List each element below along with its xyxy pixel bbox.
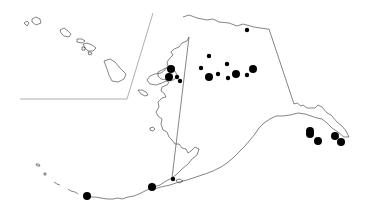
map-marker [167, 65, 175, 73]
map-marker [175, 75, 179, 79]
map-marker [207, 54, 211, 58]
marker-layer [83, 28, 345, 200]
map-marker [232, 70, 240, 78]
map-marker [171, 177, 175, 181]
map-marker [331, 132, 339, 140]
alaska-hawaii-map [0, 0, 376, 216]
map-marker [199, 66, 203, 70]
map-marker [245, 73, 249, 77]
map-marker [216, 72, 220, 76]
map-marker [249, 65, 257, 73]
map-marker [306, 130, 314, 138]
map-marker [245, 28, 249, 32]
map-marker [205, 73, 213, 81]
hawaii-inset-border [20, 13, 153, 99]
map-marker [226, 76, 230, 80]
map-marker [83, 192, 91, 200]
map-marker [337, 138, 345, 146]
map-marker [178, 79, 182, 83]
alaska-outline [138, 15, 349, 189]
map-marker [165, 73, 173, 81]
map-marker [314, 137, 322, 145]
map-marker [225, 62, 229, 66]
aleutian-islands [36, 164, 183, 199]
map-marker [148, 183, 156, 191]
hawaii-islands [24, 17, 126, 82]
